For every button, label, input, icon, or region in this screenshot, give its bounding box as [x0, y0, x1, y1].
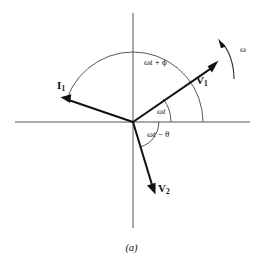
vector-i1-shaft [69, 100, 134, 122]
vector-label-v1-text: V [196, 74, 204, 86]
omega-rotation-arc [222, 43, 234, 79]
vector-label-v1-sub: 1 [204, 79, 208, 88]
omega-arrowhead [218, 39, 225, 49]
vector-label-v2-text: V [158, 182, 166, 194]
omega-label: ω [240, 45, 246, 54]
vector-label-i1: I1 [57, 80, 65, 93]
vector-i1-arrowhead [61, 94, 72, 103]
vector-label-v2-sub: 2 [166, 187, 170, 196]
figure-caption: (a) [0, 242, 263, 253]
angle-label-wt-t: t [163, 106, 166, 116]
phasor-figure: V1 V2 I1 ω ωt + ϕ ωt ωt − θ (a) [0, 0, 263, 269]
angle-label-wt-plus-phi: ωt + ϕ [144, 58, 167, 67]
angle-label-wt-plus-phi-suffix: + ϕ [152, 57, 166, 67]
angle-label-wt: ωt [157, 107, 165, 116]
vector-v2-arrowhead [147, 183, 156, 195]
vector-label-v1: V1 [196, 75, 208, 88]
vector-label-v2: V2 [158, 183, 170, 196]
vector-label-i1-sub: 1 [61, 84, 65, 93]
angle-label-wt-minus-theta-suffix: − θ [155, 129, 169, 139]
phasor-diagram-svg [0, 0, 263, 269]
angle-label-wt-minus-theta: ωt − θ [147, 130, 169, 139]
